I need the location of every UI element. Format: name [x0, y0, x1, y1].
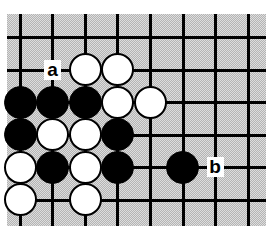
black-stone[interactable]	[36, 151, 69, 184]
black-stone[interactable]	[36, 86, 69, 119]
goban-surface: ab	[7, 14, 266, 226]
white-stone[interactable]	[101, 86, 134, 119]
black-stone[interactable]	[101, 151, 134, 184]
white-stone[interactable]	[69, 183, 102, 216]
white-stone[interactable]	[69, 151, 102, 184]
white-stone[interactable]	[101, 53, 134, 86]
white-stone[interactable]	[69, 118, 102, 151]
grid-line-vertical	[214, 14, 217, 226]
black-stone[interactable]	[4, 118, 37, 151]
white-stone[interactable]	[36, 118, 69, 151]
marker-label-a: a	[44, 60, 61, 80]
marker-label-b: b	[207, 157, 224, 177]
go-board-diagram: ab	[0, 0, 273, 237]
white-stone[interactable]	[4, 183, 37, 216]
grid-line-vertical	[182, 14, 185, 226]
grid-line-horizontal	[7, 36, 266, 39]
white-stone[interactable]	[134, 86, 167, 119]
black-stone[interactable]	[69, 86, 102, 119]
black-stone[interactable]	[4, 86, 37, 119]
black-stone[interactable]	[166, 151, 199, 184]
grid-line-vertical	[247, 14, 250, 226]
white-stone[interactable]	[69, 53, 102, 86]
white-stone[interactable]	[4, 151, 37, 184]
grid-line-vertical	[149, 14, 152, 226]
black-stone[interactable]	[101, 118, 134, 151]
grid-line-horizontal	[7, 199, 266, 202]
